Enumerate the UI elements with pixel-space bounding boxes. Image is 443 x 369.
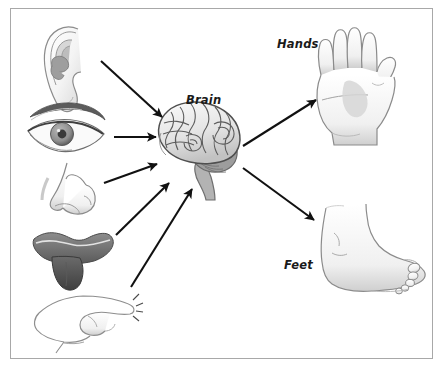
brain-label: Brain xyxy=(186,93,221,107)
hands-label: Hands xyxy=(277,37,319,51)
feet-label: Feet xyxy=(284,258,313,272)
touch-spark-icon xyxy=(133,294,143,321)
arrow-mouth-to-brain xyxy=(116,183,169,235)
diagram-artwork xyxy=(0,0,443,369)
mouth-illustration xyxy=(33,233,113,290)
foot-illustration xyxy=(321,204,425,294)
brain-illustration xyxy=(159,102,240,200)
nose-illustration xyxy=(42,163,95,214)
arrow-brain-to-hands xyxy=(243,100,316,146)
finger-illustration xyxy=(35,294,143,353)
ear-illustration xyxy=(44,27,81,112)
hand-illustration xyxy=(317,28,396,145)
arrow-finger-to-brain xyxy=(131,189,192,287)
arrow-brain-to-feet xyxy=(243,168,314,220)
arrow-nose-to-brain xyxy=(104,164,157,183)
figure-canvas: Brain Hands Feet xyxy=(0,0,443,369)
arrow-ear-to-brain xyxy=(101,61,162,117)
